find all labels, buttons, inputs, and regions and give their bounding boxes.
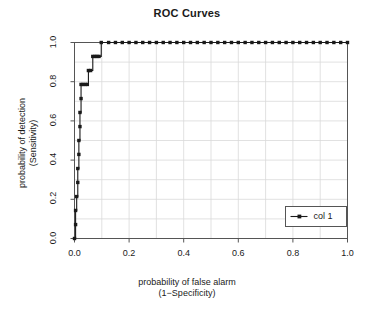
- y-tick-label: 1.0: [48, 31, 58, 53]
- legend-marker-sample: [298, 215, 302, 219]
- data-point-marker: [121, 41, 124, 44]
- y-tick-label: 0.4: [48, 148, 58, 170]
- data-point-marker: [77, 153, 80, 156]
- data-point-marker: [86, 83, 89, 86]
- data-point-marker: [75, 195, 78, 198]
- data-point-marker: [78, 111, 81, 114]
- data-point-marker: [325, 41, 328, 44]
- x-tick-label: 1.0: [333, 248, 363, 258]
- x-axis-label-line1: probability of false alarm: [138, 277, 236, 287]
- data-point-marker: [162, 41, 165, 44]
- data-point-marker: [305, 41, 308, 44]
- legend-item-label[interactable]: col 1: [314, 211, 333, 221]
- x-tick-label: 0.6: [223, 248, 253, 258]
- data-point-marker: [284, 41, 287, 44]
- data-point-marker: [223, 41, 226, 44]
- data-point-marker: [271, 41, 274, 44]
- y-tick-label: 0.6: [48, 109, 58, 131]
- data-point-marker: [155, 41, 158, 44]
- data-point-marker: [216, 41, 219, 44]
- data-point-marker: [74, 223, 77, 226]
- data-point-marker: [237, 41, 240, 44]
- data-point-marker: [168, 41, 171, 44]
- data-point-marker: [209, 41, 212, 44]
- data-point-marker: [182, 41, 185, 44]
- y-tick-label: 0.0: [48, 227, 58, 249]
- data-point-marker: [76, 181, 79, 184]
- x-axis-label-line2: (1−Specificity): [0, 288, 374, 299]
- data-point-marker: [312, 41, 315, 44]
- data-point-marker: [97, 55, 100, 58]
- y-tick-label: 0.8: [48, 70, 58, 92]
- data-point-marker: [250, 41, 253, 44]
- data-point-marker: [79, 97, 82, 100]
- data-point-marker: [107, 41, 110, 44]
- x-axis-label: probability of false alarm (1−Specificit…: [0, 277, 374, 299]
- x-tick-label: 0.0: [60, 248, 90, 258]
- data-point-marker: [230, 41, 233, 44]
- chart-title: ROC Curves: [0, 7, 374, 19]
- data-point-marker: [264, 41, 267, 44]
- x-tick-label: 0.4: [169, 248, 199, 258]
- data-point-marker: [175, 41, 178, 44]
- roc-chart-figure: ROC Curves probability of detection (Sen…: [0, 0, 374, 317]
- data-point-marker: [278, 41, 281, 44]
- data-point-marker: [78, 125, 81, 128]
- data-point-marker: [202, 41, 205, 44]
- data-point-marker: [74, 209, 77, 212]
- data-point-marker: [189, 41, 192, 44]
- data-point-marker: [319, 41, 322, 44]
- data-point-marker: [196, 41, 199, 44]
- data-point-marker: [257, 41, 260, 44]
- data-point-marker: [76, 167, 79, 170]
- data-point-marker: [339, 41, 342, 44]
- data-point-marker: [73, 237, 76, 240]
- data-point-marker: [134, 41, 137, 44]
- y-axis-label-line2: (Sensitivity): [28, 53, 39, 233]
- data-point-marker: [100, 41, 103, 44]
- data-point-marker: [114, 41, 117, 44]
- data-point-marker: [298, 41, 301, 44]
- data-point-marker: [89, 69, 92, 72]
- y-tick-label: 0.2: [48, 187, 58, 209]
- y-axis-label: probability of detection (Sensitivity): [17, 53, 39, 233]
- data-point-marker: [127, 41, 130, 44]
- data-point-marker: [148, 41, 151, 44]
- data-point-marker: [291, 41, 294, 44]
- x-tick-label: 0.8: [278, 248, 308, 258]
- data-point-marker: [77, 139, 80, 142]
- y-axis-label-line1: probability of detection: [17, 98, 27, 188]
- data-point-marker: [243, 41, 246, 44]
- x-tick-label: 0.2: [114, 248, 144, 258]
- data-point-marker: [332, 41, 335, 44]
- data-point-marker: [141, 41, 144, 44]
- data-point-marker: [346, 41, 349, 44]
